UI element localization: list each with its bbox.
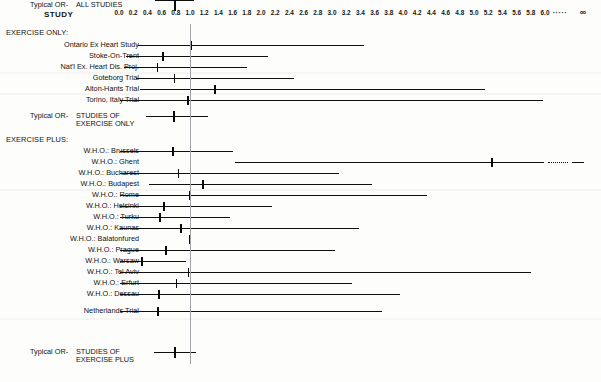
x-tick-5-2: 5.2 — [484, 9, 493, 16]
summary-prefix-typical-or-exercise-only: Typical OR- — [30, 111, 68, 120]
point-estimate — [157, 307, 159, 316]
ci-line — [120, 294, 400, 295]
summary-prefix-typical-or-all-studies: Typical OR- — [30, 0, 68, 9]
ci-line — [120, 228, 359, 229]
x-tick-3-2: 3.2 — [342, 9, 351, 16]
summary-prefix-typical-or-exercise-plus: Typical OR- — [30, 347, 68, 356]
x-tick-1-8: 1.8 — [242, 9, 251, 16]
x-axis-break-marker: ····· — [553, 9, 568, 16]
scan-artifact — [0, 72, 601, 74]
ci-line — [136, 78, 294, 79]
point-estimate — [163, 202, 165, 211]
x-tick-0-0: 0.0 — [115, 9, 124, 16]
point-estimate — [214, 85, 216, 94]
ci-line — [120, 283, 352, 284]
ci-line — [120, 100, 542, 101]
summary-label2-typical-or-exercise-only: EXERCISE ONLY — [76, 119, 134, 128]
point-estimate — [191, 41, 193, 50]
null-reference-line — [190, 24, 191, 364]
x-tick-3-6: 3.6 — [370, 9, 379, 16]
point-estimate — [165, 246, 167, 255]
point-estimate — [174, 74, 176, 83]
x-tick-3-4: 3.4 — [356, 9, 365, 16]
x-tick-5-0: 5.0 — [470, 9, 479, 16]
x-tick-infinity: ∞ — [580, 7, 586, 17]
x-tick-2-8: 2.8 — [313, 9, 322, 16]
ci-line — [120, 151, 233, 152]
ci-line — [120, 217, 229, 218]
point-estimate — [158, 290, 160, 299]
x-tick-4-8: 4.8 — [455, 9, 464, 16]
x-tick-3-0: 3.0 — [328, 9, 337, 16]
ci-line — [126, 56, 268, 57]
ci-truncated-dots — [548, 162, 568, 165]
x-tick-5-8: 5.8 — [526, 9, 535, 16]
ci-line — [120, 261, 185, 262]
summary-label2-typical-or-exercise-plus: EXERCISE PLUS — [76, 355, 134, 364]
scan-artifact — [0, 318, 601, 320]
summary-point-estimate — [174, 347, 176, 358]
x-tick-0-4: 0.4 — [143, 9, 152, 16]
point-estimate — [159, 213, 161, 222]
x-tick-1-6: 1.6 — [228, 9, 237, 16]
ci-line — [120, 311, 381, 312]
point-estimate — [178, 169, 180, 178]
x-tick-1-4: 1.4 — [214, 9, 223, 16]
scan-artifact — [0, 189, 601, 191]
study-label: Goteborg Trial — [93, 73, 139, 82]
point-estimate — [176, 279, 178, 288]
x-tick-4-2: 4.2 — [413, 9, 422, 16]
ci-line — [120, 195, 427, 196]
x-axis-tick-labels: 0.00.20.40.60.81.01.21.41.61.82.02.22.42… — [0, 9, 601, 21]
section-heading-exercise-only: EXERCISE ONLY: — [6, 28, 68, 37]
ci-line — [120, 250, 334, 251]
x-tick-1-0: 1.0 — [186, 9, 195, 16]
x-tick-4-4: 4.4 — [427, 9, 436, 16]
ci-line — [140, 89, 484, 90]
point-estimate — [202, 180, 204, 189]
x-tick-5-6: 5.6 — [512, 9, 521, 16]
x-tick-0-6: 0.6 — [157, 9, 166, 16]
study-label: Alton-Hants Trial — [85, 84, 139, 93]
study-label: W.H.O.: Balatonfured — [70, 234, 139, 243]
x-tick-4-6: 4.6 — [441, 9, 450, 16]
ci-line — [124, 67, 247, 68]
study-label: Ontario Ex Heart Study — [64, 40, 139, 49]
summary-label-typical-or-all-studies: ALL STUDIES — [76, 0, 122, 9]
point-estimate — [141, 257, 143, 266]
x-tick-0-2: 0.2 — [129, 9, 138, 16]
study-label: W.H.O.: Ghent — [92, 157, 139, 166]
ci-line — [146, 116, 208, 117]
point-estimate — [157, 63, 159, 72]
x-tick-5-4: 5.4 — [498, 9, 507, 16]
x-tick-6-0: 6.0 — [541, 9, 550, 16]
point-estimate — [180, 224, 182, 233]
x-tick-2-2: 2.2 — [271, 9, 280, 16]
ci-line — [120, 173, 339, 174]
ci-line — [120, 206, 272, 207]
point-estimate — [172, 147, 174, 156]
ci-line — [235, 162, 544, 163]
forest-plot: STUDY 0.00.20.40.60.81.01.21.41.61.82.02… — [0, 0, 601, 382]
summary-point-estimate — [173, 111, 175, 122]
x-tick-2-4: 2.4 — [285, 9, 294, 16]
x-tick-2-6: 2.6 — [299, 9, 308, 16]
ci-line — [120, 272, 530, 273]
ci-line — [138, 45, 364, 46]
x-tick-2-0: 2.0 — [257, 9, 266, 16]
x-tick-3-8: 3.8 — [384, 9, 393, 16]
point-estimate — [491, 158, 493, 167]
summary-point-estimate — [174, 0, 176, 11]
x-tick-1-2: 1.2 — [200, 9, 209, 16]
ci-line — [149, 184, 373, 185]
x-tick-4-0: 4.0 — [399, 9, 408, 16]
ci-infinity-tail — [572, 162, 584, 163]
study-label: W.H.O.: Budapest — [81, 179, 139, 188]
point-estimate — [162, 52, 164, 61]
section-heading-exercise-plus: EXERCISE PLUS: — [6, 135, 68, 144]
